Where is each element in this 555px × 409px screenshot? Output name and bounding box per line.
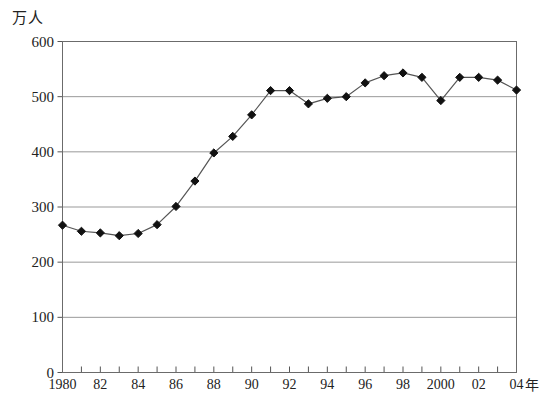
data-point-markers-group (58, 69, 520, 240)
data-point-marker (475, 73, 483, 81)
data-point-marker (342, 93, 350, 101)
line-chart-figure: 万人 0100200300400500600 19808284868890929… (0, 0, 555, 409)
data-point-marker (380, 72, 388, 80)
plot-canvas (0, 0, 555, 409)
y-tick-label-300: 300 (2, 200, 54, 215)
data-point-marker (399, 69, 407, 77)
y-tick-label-600: 600 (2, 35, 54, 50)
data-point-marker (134, 229, 142, 237)
data-point-marker (512, 86, 520, 94)
y-tick-label-100: 100 (2, 310, 54, 325)
data-point-marker (58, 221, 66, 229)
data-point-marker (96, 229, 104, 237)
data-point-marker (361, 79, 369, 87)
data-series-line (63, 73, 517, 236)
y-tick-label-500: 500 (2, 90, 54, 105)
y-tick-label-400: 400 (2, 145, 54, 160)
data-point-marker (77, 227, 85, 235)
data-point-marker (285, 86, 293, 94)
data-point-marker (493, 76, 501, 84)
data-point-marker (115, 232, 123, 240)
y-tick-label-200: 200 (2, 255, 54, 270)
data-point-marker (304, 100, 312, 108)
data-point-marker (323, 94, 331, 102)
x-axis-unit-label: 年 (525, 377, 539, 394)
x-axis-ticks-group (63, 367, 517, 373)
